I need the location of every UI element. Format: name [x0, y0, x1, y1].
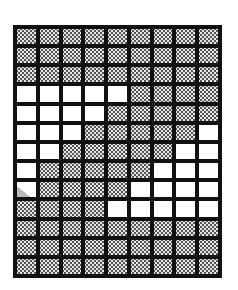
stippled-cell — [63, 144, 82, 159]
white-cell — [154, 163, 173, 178]
white-cell — [17, 86, 36, 101]
stippled-cell — [40, 67, 59, 82]
stippled-cell — [40, 163, 59, 178]
stippled-cell — [199, 221, 218, 236]
stippled-cell — [40, 182, 59, 197]
stippled-cell — [108, 29, 127, 44]
white-cell — [176, 144, 195, 159]
stippled-cell — [85, 144, 104, 159]
stippled-cell — [40, 201, 59, 216]
stippled-cell — [108, 67, 127, 82]
stippled-cell — [17, 221, 36, 236]
stippled-cell — [63, 29, 82, 44]
stippled-cell — [17, 48, 36, 63]
stippled-cell — [108, 240, 127, 255]
stippled-cell — [154, 259, 173, 274]
stippled-cell — [176, 240, 195, 255]
stippled-cell — [17, 259, 36, 274]
stippled-cell — [40, 221, 59, 236]
stippled-cell — [17, 29, 36, 44]
stippled-cell — [131, 125, 150, 140]
white-cell — [199, 144, 218, 159]
stippled-cell — [17, 201, 36, 216]
stippled-cell — [154, 67, 173, 82]
white-cell — [199, 163, 218, 178]
white-cell — [40, 125, 59, 140]
white-cell — [176, 201, 195, 216]
stippled-cell — [63, 48, 82, 63]
stippled-cell — [131, 29, 150, 44]
white-cell — [85, 86, 104, 101]
stippled-cell — [85, 125, 104, 140]
stippled-cell — [199, 67, 218, 82]
white-cell — [154, 182, 173, 197]
stippled-cell — [154, 144, 173, 159]
stippled-cell — [131, 86, 150, 101]
stippled-cell — [40, 48, 59, 63]
stippled-cell — [63, 182, 82, 197]
stippled-cell — [108, 182, 127, 197]
stippled-cell — [85, 182, 104, 197]
stippled-cell — [131, 144, 150, 159]
stippled-cell — [154, 221, 173, 236]
stippled-cell — [131, 259, 150, 274]
white-cell — [17, 144, 36, 159]
white-cell — [176, 182, 195, 197]
white-cell — [40, 86, 59, 101]
white-cell — [131, 201, 150, 216]
stippled-cell — [154, 86, 173, 101]
white-cell — [63, 106, 82, 121]
stippled-cell — [176, 86, 195, 101]
stippled-cell — [85, 259, 104, 274]
stippled-cell — [85, 240, 104, 255]
white-cell — [154, 201, 173, 216]
stippled-cell — [176, 221, 195, 236]
stippled-cell — [154, 106, 173, 121]
white-cell — [17, 163, 36, 178]
stippled-cell — [40, 259, 59, 274]
white-cell — [63, 86, 82, 101]
white-cell — [108, 86, 127, 101]
white-cell — [131, 182, 150, 197]
stippled-cell — [154, 125, 173, 140]
stippled-cell — [63, 201, 82, 216]
stippled-cell — [63, 259, 82, 274]
stippled-cell — [85, 67, 104, 82]
stippled-cell — [63, 221, 82, 236]
stippled-cell — [131, 240, 150, 255]
stippled-cell — [176, 48, 195, 63]
stippled-cell — [199, 106, 218, 121]
stippled-cell — [108, 106, 127, 121]
white-cell — [85, 106, 104, 121]
stippled-cell — [85, 163, 104, 178]
stippled-cell — [40, 29, 59, 44]
stippled-cell — [108, 163, 127, 178]
stippled-cell — [108, 259, 127, 274]
stippled-cell — [131, 163, 150, 178]
stippled-cell — [199, 86, 218, 101]
stippled-cell — [176, 259, 195, 274]
white-cell — [199, 182, 218, 197]
white-cell — [199, 125, 218, 140]
stippled-cell — [85, 29, 104, 44]
stippled-cell — [131, 221, 150, 236]
stippled-cell — [85, 201, 104, 216]
white-cell — [40, 106, 59, 121]
stippled-cell — [176, 67, 195, 82]
stippled-cell — [17, 67, 36, 82]
stippled-cell — [154, 240, 173, 255]
white-cell — [176, 163, 195, 178]
stippled-cell — [85, 48, 104, 63]
stippled-cell — [154, 48, 173, 63]
partial-cell — [17, 182, 36, 197]
stippled-cell — [63, 240, 82, 255]
white-cell — [199, 201, 218, 216]
stippled-cell — [131, 67, 150, 82]
stippled-cell — [154, 29, 173, 44]
stippled-cell — [199, 259, 218, 274]
white-cell — [17, 106, 36, 121]
stippled-cell — [63, 67, 82, 82]
stippled-cell — [176, 106, 195, 121]
stippled-cell — [40, 240, 59, 255]
stippled-cell — [131, 48, 150, 63]
